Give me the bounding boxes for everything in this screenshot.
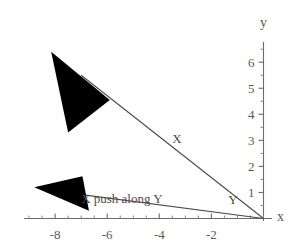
- y-tick-label: 6: [235, 56, 255, 69]
- y-tick-label: 4: [235, 108, 255, 121]
- vector-plot-canvas: [0, 0, 305, 247]
- x-tick-label: -8: [40, 228, 70, 241]
- vector-annotation: X push along Y: [81, 192, 163, 205]
- vector-arrowhead: [51, 52, 110, 133]
- x-tick-label: -4: [144, 228, 174, 241]
- y-tick-label: 3: [235, 134, 255, 147]
- x-axis-label: x: [277, 210, 284, 224]
- y-tick-label: 2: [235, 160, 255, 173]
- x-tick-label: -6: [92, 228, 122, 241]
- y-axis-label: y: [260, 16, 267, 30]
- x-tick-label: -2: [196, 228, 226, 241]
- vector-annotation: Y: [228, 193, 237, 206]
- y-tick-label: 5: [235, 82, 255, 95]
- vector-annotation: X: [172, 132, 181, 145]
